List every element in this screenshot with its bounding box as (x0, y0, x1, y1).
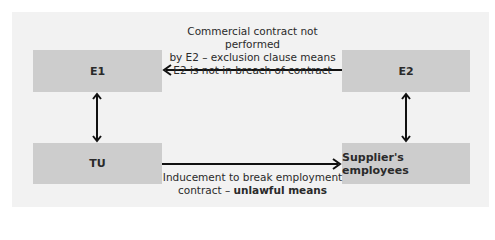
edge-label-tu-to-suppliers-line1: Inducement to break employment (160, 171, 345, 184)
arrow-e2-suppliers-bidirectional (402, 94, 410, 141)
edge-label-e2-to-e1-line3: E2 is not in breach of contract (160, 64, 345, 77)
arrow-tu-to-suppliers (162, 159, 340, 169)
edge-label-e2-to-e1-line1: Commercial contract not performed (160, 25, 345, 51)
edge-label-e2-to-e1: Commercial contract not performed by E2 … (160, 25, 345, 77)
edge-label-tu-to-suppliers-bold: unlawful means (234, 184, 328, 196)
edge-label-tu-to-suppliers: Inducement to break employment contract … (160, 171, 345, 197)
edge-label-tu-to-suppliers-line2: contract – unlawful means (160, 184, 345, 197)
edge-label-tu-to-suppliers-plain: contract – (178, 184, 234, 196)
edge-label-e2-to-e1-line2: by E2 – exclusion clause means (160, 51, 345, 64)
arrow-e1-tu-bidirectional (93, 94, 101, 141)
